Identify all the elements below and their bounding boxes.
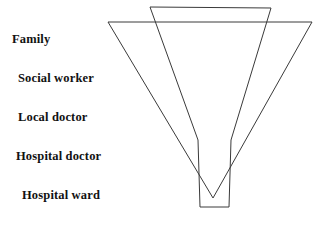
stage-label-hospital-doctor: Hospital doctor xyxy=(16,150,101,163)
stage-label-family: Family xyxy=(12,33,50,46)
stage-label-local-doctor: Local doctor xyxy=(18,111,88,124)
funnel-diagram: Family Social worker Local doctor Hospit… xyxy=(0,0,328,230)
stage-label-list: Family Social worker Local doctor Hospit… xyxy=(0,0,328,230)
stage-label-hospital-ward: Hospital ward xyxy=(22,189,100,202)
stage-label-social-worker: Social worker xyxy=(18,72,94,85)
